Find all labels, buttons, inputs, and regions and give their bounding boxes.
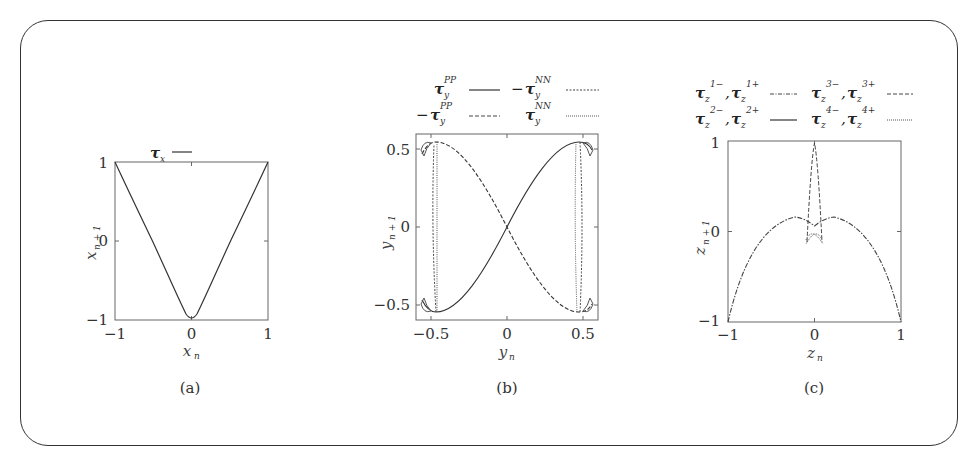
curve-tau-z-3	[807, 143, 822, 242]
svg-text:n + 1: n + 1	[701, 220, 711, 245]
svg-text:PP: PP	[443, 75, 457, 85]
svg-text:y: y	[534, 116, 541, 126]
svg-text:1+: 1+	[746, 79, 759, 89]
svg-text:PP: PP	[439, 101, 453, 111]
svg-text:y: y	[377, 241, 395, 251]
svg-text:−: −	[511, 80, 524, 98]
svg-text:4−: 4−	[825, 105, 839, 115]
xtick-a-mid: 0	[187, 325, 197, 343]
legend-b: τ y PP − τ y NN − τ y PP τ y NN	[416, 75, 599, 126]
svg-text:3+: 3+	[862, 79, 875, 89]
svg-text:z: z	[856, 94, 862, 104]
xtick-c-right: 1	[896, 326, 906, 344]
svg-text:−: −	[416, 106, 429, 124]
panel-c: τ z 1− , τ z 1+ τ z 3− , τ z 3+ τ z 2− ,…	[691, 79, 913, 397]
xtick-b-right: 0.5	[571, 325, 595, 343]
svg-text:y: y	[534, 90, 541, 100]
ylabel-a: x n + 1	[82, 225, 102, 260]
svg-text:z: z	[820, 94, 826, 104]
loop-bl	[421, 298, 431, 312]
svg-text:y: y	[439, 116, 446, 126]
curve-tau-x	[115, 162, 268, 318]
axes-c	[728, 141, 901, 322]
svg-text:n + 1: n + 1	[92, 225, 102, 250]
svg-text:NN: NN	[534, 101, 552, 111]
svg-text:,: ,	[841, 110, 846, 128]
panel-a: τ x 1 0 −1 −1 0 1 x n x n + 1 (a)	[82, 144, 273, 397]
ylabel-c: z n + 1	[691, 220, 711, 256]
svg-text:y: y	[443, 90, 450, 100]
caption-c: (c)	[804, 379, 824, 397]
svg-text:n + 1: n + 1	[387, 215, 397, 240]
svg-text:z: z	[820, 120, 826, 130]
loop-tl	[421, 142, 431, 156]
xtick-c-left: −1	[717, 326, 739, 344]
svg-text:x: x	[82, 251, 100, 260]
axes-a	[115, 162, 268, 320]
legend-c: τ z 1− , τ z 1+ τ z 3− , τ z 3+ τ z 2− ,…	[695, 79, 913, 130]
svg-text:2−: 2−	[709, 105, 723, 115]
ytick-c-mid: 0	[710, 223, 720, 241]
caption-a: (a)	[180, 379, 201, 397]
svg-text:z: z	[740, 94, 746, 104]
ytick-a-top: 1	[98, 154, 108, 172]
svg-text:z: z	[704, 120, 710, 130]
ytick-b-bot: −0.5	[374, 296, 410, 314]
xlabel-b: y	[498, 343, 508, 361]
svg-text:3−: 3−	[826, 79, 839, 89]
svg-text:z: z	[740, 120, 746, 130]
svg-text:z: z	[691, 247, 709, 256]
caption-b: (b)	[496, 379, 517, 397]
xtick-a-right: 1	[263, 325, 273, 343]
xtick-b-mid: 0	[502, 325, 512, 343]
xtick-a-left: −1	[104, 325, 126, 343]
svg-text:,: ,	[725, 110, 730, 128]
xlabel-c-sub: n	[817, 353, 823, 363]
curve-tau-y-nn-right	[575, 142, 577, 312]
svg-text:NN: NN	[534, 75, 552, 85]
curve-tau-z-4	[806, 234, 823, 244]
panel-b: τ y PP − τ y NN − τ y PP τ y NN	[374, 75, 599, 397]
curve-neg-tau-y-nn-right	[580, 142, 582, 312]
figure-canvas: τ x 1 0 −1 −1 0 1 x n x n + 1 (a) τ y	[0, 0, 969, 466]
svg-text:z: z	[704, 94, 710, 104]
svg-text:z: z	[856, 120, 862, 130]
xtick-c-mid: 0	[810, 326, 820, 344]
xlabel-c: z	[806, 344, 815, 362]
curve-neg-tau-y-nn-left	[433, 144, 436, 312]
xlabel-a-sub: n	[194, 351, 200, 361]
curve-neg-tau-y-pp	[422, 142, 592, 312]
xtick-b-left: −0.5	[413, 325, 449, 343]
ylabel-b: y n + 1	[377, 215, 397, 251]
ytick-b-top: 0.5	[386, 141, 410, 159]
xlabel-b-sub: n	[509, 352, 515, 362]
ytick-b-mid: 0	[400, 218, 410, 236]
legend-a: τ x	[150, 144, 192, 164]
ytick-c-top: 1	[710, 134, 720, 152]
svg-text:,: ,	[725, 84, 730, 102]
curve-tau-z-1	[728, 217, 901, 322]
svg-text:,: ,	[841, 84, 846, 102]
xlabel-a: x	[183, 342, 192, 360]
svg-text:4+: 4+	[861, 105, 875, 115]
svg-text:2+: 2+	[745, 105, 759, 115]
svg-text:1−: 1−	[710, 79, 723, 89]
